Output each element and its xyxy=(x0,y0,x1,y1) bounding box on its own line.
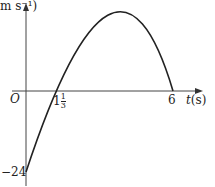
y-axis-label: m s⁻¹) xyxy=(0,0,37,13)
tick-y-neg24: −24 xyxy=(1,165,26,179)
x-axis-label: t(s) xyxy=(186,93,206,107)
velocity-time-graph xyxy=(0,0,215,187)
velocity-curve xyxy=(26,12,173,172)
tick-x-1-1-3: 1 1 3 xyxy=(53,93,66,110)
tick-x-6: 6 xyxy=(168,93,176,107)
origin-label: O xyxy=(10,92,20,106)
